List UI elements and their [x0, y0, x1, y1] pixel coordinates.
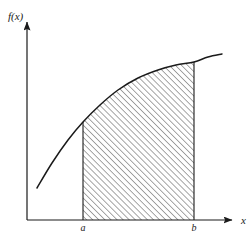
figure-canvas: f(x) x a b [0, 0, 251, 242]
upper-limit-label: b [192, 222, 197, 233]
lower-limit-label: a [81, 222, 86, 233]
shaded-area-under-curve [83, 62, 194, 220]
integral-figure: f(x) x a b [0, 0, 251, 242]
y-axis-label: f(x) [8, 10, 24, 23]
x-axis-label: x [240, 214, 246, 226]
